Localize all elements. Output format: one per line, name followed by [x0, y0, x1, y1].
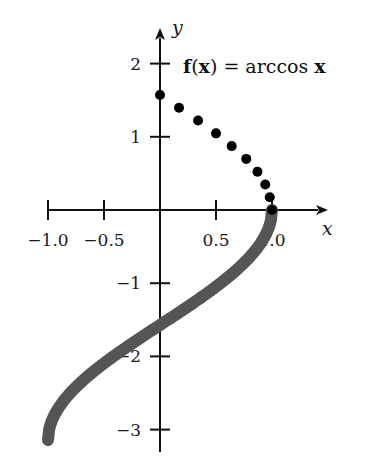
x-tick-label: −1.0 [27, 230, 68, 250]
data-point [252, 167, 262, 177]
y-tick-label: −1 [116, 273, 141, 293]
title-close-paren: ) [210, 55, 217, 77]
data-point [265, 192, 275, 202]
data-point [267, 205, 277, 215]
x-axis-label: x [322, 217, 333, 239]
x-tick-label: 0.5 [202, 230, 229, 250]
y-tick-label: 2 [130, 54, 141, 74]
title-open-paren: ( [191, 55, 198, 77]
data-point [193, 116, 203, 126]
arccos-chart: −1.0−0.50.51.0 21−1−2−3 x y f(x) = arcco… [0, 0, 377, 468]
data-point [260, 179, 270, 189]
title-x2: x [314, 55, 326, 77]
x-ticks: −1.0−0.50.51.0 [27, 200, 285, 250]
arccos-dots [155, 90, 277, 215]
data-point [227, 141, 237, 151]
chart-title: f(x) = arccos x [183, 55, 326, 77]
x-tick-label: −0.5 [83, 230, 124, 250]
y-tick-label: 1 [130, 127, 141, 147]
data-point [211, 128, 221, 138]
data-point [174, 103, 184, 113]
data-point [241, 154, 251, 164]
y-axis-label: y [171, 16, 183, 38]
title-equals-arccos: = arccos [217, 55, 314, 77]
y-tick-label: −3 [116, 420, 141, 440]
title-x: x [199, 55, 211, 77]
data-point [155, 90, 165, 100]
